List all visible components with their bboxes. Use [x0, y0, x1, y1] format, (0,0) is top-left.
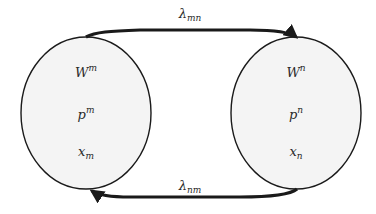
- edge-n-to-m-label: λnm: [179, 179, 202, 195]
- node-m-var-W: Wm: [75, 64, 97, 79]
- var-superscript: n: [300, 63, 306, 73]
- node-m-var-x: xm: [78, 145, 94, 161]
- var-subscript: n: [297, 151, 303, 161]
- edge-m-to-n-label: λmn: [179, 7, 202, 23]
- var-subscript: m: [85, 151, 94, 161]
- lambda-symbol: λ: [179, 178, 187, 193]
- var-base: W: [286, 65, 299, 80]
- edge-m-to-n-arrow: [86, 30, 296, 37]
- node-m-var-p: pm: [78, 106, 95, 121]
- transition-diagram: λmn λnm Wm pm xm Wn pn xn: [0, 0, 376, 214]
- var-base: W: [75, 65, 88, 80]
- edge-label-subscript: mn: [187, 13, 201, 23]
- var-superscript: m: [88, 63, 97, 73]
- node-n-var-W: Wn: [286, 64, 305, 79]
- edge-label-subscript: nm: [187, 185, 201, 195]
- var-superscript: n: [297, 105, 303, 115]
- node-n-var-x: xn: [289, 145, 302, 161]
- lambda-symbol: λ: [179, 6, 187, 21]
- var-superscript: m: [86, 105, 95, 115]
- node-n-var-p: pn: [289, 106, 303, 121]
